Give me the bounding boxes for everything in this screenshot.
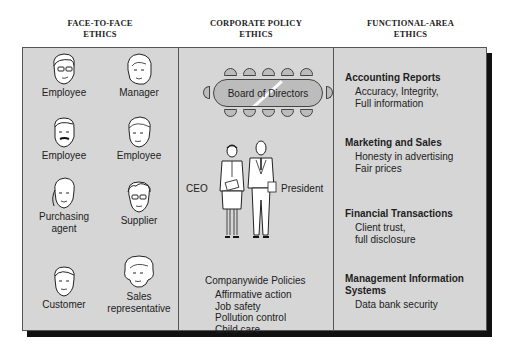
man-with-glasses-face-icon [49, 52, 79, 86]
man-face-icon [49, 264, 79, 298]
chair-icon [262, 68, 275, 76]
policies-title: Companywide Policies [205, 275, 306, 287]
policy-item: Job safety [215, 301, 306, 313]
person-label-line: representative [103, 303, 175, 315]
person-label-line: Sales [103, 291, 175, 303]
section-title: Management Information Systems [345, 273, 485, 297]
column-header-face-to-face: FACE-TO-FACE ETHICS [22, 18, 178, 40]
section-title-line: Systems [345, 285, 485, 297]
description-line: Client trust, [355, 222, 485, 234]
header-line: FUNCTIONAL-AREA [334, 18, 487, 29]
description-line: full disclosure [355, 234, 485, 246]
section-title: Marketing and Sales [345, 137, 485, 149]
president-label: President [281, 183, 323, 194]
person-label: Employee [28, 150, 100, 162]
section-description: Honesty in advertising Fair prices [345, 151, 485, 175]
section-title-line: Management Information [345, 273, 485, 285]
board-of-directors-diagram: Board of Directors [183, 57, 333, 137]
header-line: ETHICS [22, 29, 178, 40]
section-description: Data bank security [345, 299, 485, 311]
woman-ponytail-face-icon [49, 176, 79, 210]
person-sales-representative: Sales representative [103, 254, 175, 315]
chair-icon [262, 109, 275, 117]
companywide-policies: Companywide Policies Affirmative action … [205, 275, 306, 335]
person-manager: Manager [103, 52, 175, 99]
person-customer: Customer [28, 264, 100, 311]
description-line: Full information [355, 98, 485, 110]
man-with-mustache-face-icon [49, 115, 79, 149]
person-label: Customer [28, 299, 100, 311]
section-accounting-reports: Accounting Reports Accuracy, Integrity, … [345, 72, 485, 110]
column-divider [178, 48, 179, 330]
policy-item: Pollution control [215, 312, 306, 324]
young-man-face-icon [124, 115, 154, 149]
person-label: Supplier [103, 215, 175, 227]
board-table: Board of Directors [213, 79, 323, 107]
chair-icon [243, 68, 256, 76]
section-financial-transactions: Financial Transactions Client trust, ful… [345, 208, 485, 246]
person-label-line: agent [28, 223, 100, 235]
column-header-corporate-policy: CORPORATE POLICY ETHICS [178, 18, 334, 40]
header-line: FACE-TO-FACE [22, 18, 178, 29]
description-line: Data bank security [355, 299, 485, 311]
woman-curly-hair-face-icon [122, 254, 156, 290]
chair-icon [203, 86, 210, 99]
header-line: ETHICS [178, 29, 334, 40]
chair-icon [281, 109, 294, 117]
section-marketing-and-sales: Marketing and Sales Honesty in advertisi… [345, 137, 485, 175]
section-title: Financial Transactions [345, 208, 485, 220]
person-label: Employee [103, 150, 175, 162]
section-management-information-systems: Management Information Systems Data bank… [345, 273, 485, 311]
man-glasses-bushy-hair-face-icon [124, 180, 154, 214]
chair-icon [326, 86, 333, 99]
person-label: Employee [28, 87, 100, 99]
person-label-line: Purchasing [28, 211, 100, 223]
ceo-label: CEO [186, 183, 208, 194]
chair-icon [224, 109, 237, 117]
section-description: Client trust, full disclosure [345, 222, 485, 246]
header-line: ETHICS [334, 29, 487, 40]
policies-list: Affirmative action Job safety Pollution … [205, 289, 306, 335]
person-employee-3: Employee [103, 115, 175, 162]
policy-item: Child care [215, 324, 306, 336]
section-title: Accounting Reports [345, 72, 485, 84]
section-description: Accuracy, Integrity, Full information [345, 86, 485, 110]
chair-icon [281, 68, 294, 76]
person-label: Sales representative [103, 291, 175, 315]
person-purchasing-agent: Purchasing agent [28, 176, 100, 235]
column-header-functional-area: FUNCTIONAL-AREA ETHICS [334, 18, 487, 40]
header-line: CORPORATE POLICY [178, 18, 334, 29]
person-label: Manager [103, 87, 175, 99]
woman-face-icon [124, 52, 154, 86]
description-line: Fair prices [355, 163, 485, 175]
description-line: Honesty in advertising [355, 151, 485, 163]
column-divider [333, 48, 334, 330]
person-employee-1: Employee [28, 52, 100, 99]
description-line: Accuracy, Integrity, [355, 86, 485, 98]
chair-icon [300, 68, 313, 76]
person-employee-2: Employee [28, 115, 100, 162]
person-label: Purchasing agent [28, 211, 100, 235]
chair-icon [243, 109, 256, 117]
person-supplier: Supplier [103, 180, 175, 227]
chair-icon [224, 68, 237, 76]
president-figure-icon [244, 140, 278, 242]
board-label: Board of Directors [228, 88, 309, 99]
ceo-figure-icon [218, 143, 246, 241]
policy-item: Affirmative action [215, 289, 306, 301]
chair-icon [300, 109, 313, 117]
